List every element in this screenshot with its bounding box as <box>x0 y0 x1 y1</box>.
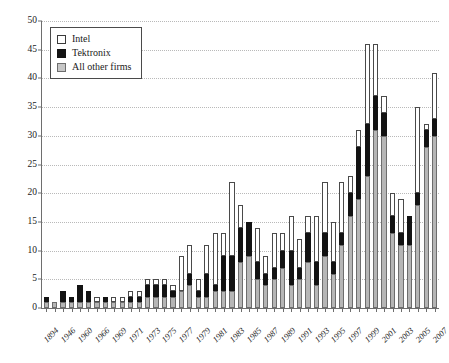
x-tick-mark <box>291 308 292 312</box>
x-tick-mark <box>46 308 47 312</box>
bar-1980 <box>204 245 209 308</box>
bar-1977 <box>179 256 184 308</box>
x-tick-label: 1987 <box>262 326 280 344</box>
x-tick-mark <box>224 308 225 312</box>
x-tick-mark <box>215 308 216 312</box>
x-tick-mark <box>376 308 377 312</box>
x-tick-mark <box>148 308 149 312</box>
bar-1993 <box>314 216 319 308</box>
x-tick-mark <box>249 308 250 312</box>
bar-segment-other <box>204 297 209 308</box>
bar-segment-other <box>272 279 277 308</box>
bar-segment-other <box>213 291 218 308</box>
x-tick-mark <box>232 308 233 312</box>
x-tick-label: 1971 <box>127 326 145 344</box>
x-tick-mark <box>435 308 436 312</box>
bar-segment-other <box>255 279 260 308</box>
x-tick-label: 1966 <box>93 326 111 344</box>
bar-segment-tektronix <box>339 233 344 244</box>
x-tick-mark <box>317 308 318 312</box>
bar-1974 <box>153 279 158 308</box>
x-tick-mark <box>342 308 343 312</box>
x-tick-mark <box>72 308 73 312</box>
x-tick-label: 1991 <box>296 326 314 344</box>
legend-swatch-tektronix <box>57 49 66 58</box>
bar-segment-tektronix <box>238 228 243 262</box>
x-tick-mark <box>80 308 81 312</box>
x-tick-label: 1973 <box>144 326 162 344</box>
x-tick-mark <box>300 308 301 312</box>
bar-1959 <box>69 297 74 308</box>
x-tick-mark <box>409 308 410 312</box>
bar-1968 <box>103 297 108 308</box>
bar-segment-intel <box>297 239 302 268</box>
bar-segment-other <box>415 205 420 308</box>
bar-1960 <box>77 285 82 308</box>
bar-segment-tektronix <box>204 274 209 297</box>
bar-segment-tektronix <box>432 119 437 136</box>
bar-segment-tektronix <box>289 251 294 285</box>
bar-1971 <box>128 291 133 308</box>
x-tick-label: 2007 <box>431 326 449 344</box>
bar-1966 <box>94 297 99 308</box>
bar-1978 <box>187 245 192 308</box>
bar-segment-other <box>407 245 412 308</box>
bar-segment-other <box>398 245 403 308</box>
bar-2006 <box>424 124 429 308</box>
bar-segment-other <box>297 279 302 308</box>
y-tick-label: 50 <box>28 16 38 26</box>
x-tick-mark <box>190 308 191 312</box>
bar-segment-intel <box>196 279 201 290</box>
bar-1972 <box>137 291 142 308</box>
bar-1975 <box>162 279 167 308</box>
x-tick-mark <box>308 308 309 312</box>
x-tick-mark <box>63 308 64 312</box>
x-tick-mark <box>359 308 360 312</box>
bar-1984 <box>238 205 243 308</box>
x-tick-label: 1985 <box>245 326 263 344</box>
y-tick-label: 20 <box>28 188 38 198</box>
x-tick-mark <box>266 308 267 312</box>
bar-segment-intel <box>272 233 277 267</box>
x-tick-label: 1975 <box>160 326 178 344</box>
x-tick-mark <box>173 308 174 312</box>
bar-segment-intel <box>415 107 420 193</box>
x-tick-label: 1997 <box>346 326 364 344</box>
bar-segment-other <box>280 268 285 308</box>
y-tick-label: 45 <box>28 45 38 55</box>
bar-segment-other <box>238 262 243 308</box>
bar-1994 <box>322 182 327 308</box>
x-tick-label: 2003 <box>397 326 415 344</box>
x-tick-mark <box>393 308 394 312</box>
bar-segment-intel <box>365 44 370 124</box>
bar-segment-tektronix <box>322 233 327 256</box>
bar-segment-tektronix <box>255 262 260 279</box>
legend-item-all-other-firms: All other firms <box>57 60 131 74</box>
x-tick-label: 1894 <box>42 326 60 344</box>
bar-2007 <box>432 73 437 308</box>
x-tick-mark <box>88 308 89 312</box>
bar-segment-tektronix <box>390 216 395 233</box>
bar-segment-tektronix <box>365 124 370 176</box>
legend-label-all-other-firms: All other firms <box>72 62 131 72</box>
bar-segment-tektronix <box>263 274 268 285</box>
chart-legend: Intel Tektronix All other firms <box>50 27 142 79</box>
x-tick-mark <box>105 308 106 312</box>
x-tick-mark <box>207 308 208 312</box>
bar-segment-intel <box>204 245 209 274</box>
y-tick-label: 15 <box>28 217 38 227</box>
x-tick-label: 1989 <box>279 326 297 344</box>
bar-segment-intel <box>229 182 234 257</box>
bar-segment-intel <box>432 73 437 119</box>
bar-1991 <box>297 239 302 308</box>
bar-1973 <box>145 279 150 308</box>
bar-segment-other <box>153 297 158 308</box>
bar-segment-intel <box>187 245 192 274</box>
bar-segment-other <box>179 291 184 308</box>
x-tick-label: 1960 <box>76 326 94 344</box>
x-tick-mark <box>181 308 182 312</box>
bar-1992 <box>305 216 310 308</box>
bar-1996 <box>339 182 344 308</box>
legend-swatch-intel <box>57 35 66 44</box>
bar-segment-tektronix <box>331 262 336 273</box>
